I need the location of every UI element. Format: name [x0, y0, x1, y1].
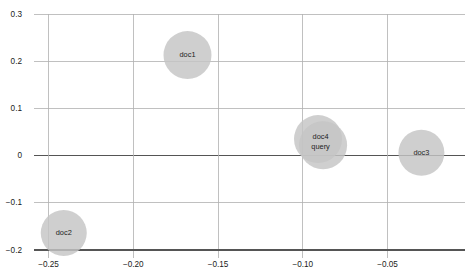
data-point-labels: doc1doc2doc3doc4query — [56, 50, 430, 237]
x-tick-label: −0.10 — [292, 260, 313, 269]
x-tick-label: −0.15 — [208, 260, 229, 269]
scatter-plot-figure: doc1doc2doc3doc4query 0.30.20.10−0.1−0.2… — [0, 0, 467, 275]
plot-canvas: doc1doc2doc3doc4query 0.30.20.10−0.1−0.2… — [0, 0, 467, 275]
y-tick-label: 0.3 — [11, 10, 23, 19]
y-tick-label: 0.2 — [11, 57, 23, 66]
data-point-bubble[interactable] — [398, 130, 444, 176]
gridlines — [34, 14, 465, 258]
y-tick-label: −0.2 — [6, 246, 23, 255]
data-point-bubble[interactable] — [163, 31, 211, 79]
y-tick-label: −0.1 — [6, 198, 23, 207]
x-tick-label: −0.25 — [38, 260, 59, 269]
y-tick-label: 0.1 — [11, 104, 23, 113]
x-tick-label: −0.05 — [377, 260, 398, 269]
y-tick-label: 0 — [17, 151, 22, 160]
data-point-layer — [41, 31, 445, 256]
data-point-bubble[interactable] — [299, 121, 347, 169]
x-tick-label: −0.20 — [123, 260, 144, 269]
data-point-bubble[interactable] — [41, 210, 87, 256]
